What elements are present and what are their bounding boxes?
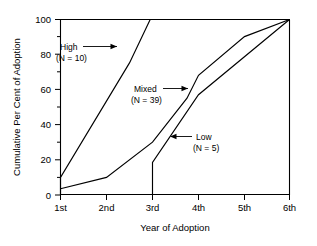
annotation-low-label: Low: [196, 132, 212, 142]
series-line-mixed: [61, 20, 290, 189]
x-tick-label-4th: 4th: [192, 202, 205, 213]
y-tick-label-60: 60: [40, 84, 51, 95]
x-tick-label-6th: 6th: [283, 202, 296, 213]
x-tick-label-2nd: 2nd: [99, 202, 115, 213]
chart-figure: 0 20 40 60 80 100 1st 2nd 3rd 4th 5th 6t…: [0, 0, 317, 246]
x-axis-title: Year of Adoption: [140, 222, 209, 233]
annotation-high: High (N = 10): [56, 42, 117, 63]
y-tick-label-80: 80: [40, 49, 51, 60]
annotation-mixed-n: (N = 39): [131, 95, 162, 105]
y-tick-label-40: 40: [40, 119, 51, 130]
x-tick-label-1st: 1st: [54, 202, 67, 213]
x-tick-label-3rd: 3rd: [146, 202, 160, 213]
x-axis-ticks: [61, 195, 290, 200]
annotation-low: Low (N = 5): [170, 132, 219, 153]
annotation-mixed: Mixed (N = 39): [131, 84, 188, 105]
annotation-high-label: High: [60, 42, 78, 52]
y-tick-label-0: 0: [46, 190, 51, 201]
annotation-mixed-label: Mixed: [134, 84, 157, 94]
annotation-low-n: (N = 5): [193, 143, 219, 153]
y-tick-label-20: 20: [40, 154, 51, 165]
annotation-mixed-arrow-icon: [182, 86, 189, 91]
annotation-high-n: (N = 10): [56, 53, 87, 63]
series-line-low: [153, 20, 290, 196]
y-tick-label-100: 100: [35, 14, 51, 25]
annotation-high-arrow-icon: [111, 44, 118, 49]
y-axis-title: Cumulative Per Cent of Adoption: [11, 38, 22, 176]
x-tick-label-5th: 5th: [238, 202, 251, 213]
adoption-cumulative-line-chart: 0 20 40 60 80 100 1st 2nd 3rd 4th 5th 6t…: [0, 0, 317, 246]
